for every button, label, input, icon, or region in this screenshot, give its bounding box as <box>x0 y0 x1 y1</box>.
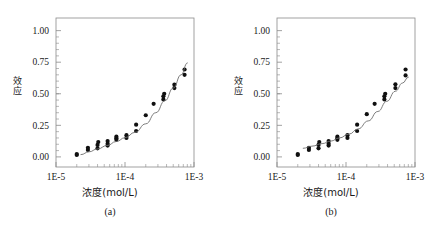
plot-frame <box>277 18 415 167</box>
x-tick-label: 1E-4 <box>116 172 135 182</box>
y-tick-label: 0.00 <box>32 152 49 162</box>
data-point <box>296 152 300 156</box>
y-tick-label: 0.25 <box>253 121 270 131</box>
data-point <box>134 123 138 127</box>
x-tick-label: 1E-5 <box>268 172 287 182</box>
y-tick-label: 0.00 <box>253 152 270 162</box>
x-tick-label: 1E-3 <box>406 172 425 182</box>
y-tick-label: 0.50 <box>32 89 49 99</box>
plot-frame <box>56 18 194 167</box>
panel-caption-b: (b) <box>221 206 441 217</box>
y-axis-title-b: 效应 <box>231 76 245 96</box>
data-point <box>96 140 100 144</box>
data-point <box>75 152 79 156</box>
panel-caption-a: (a) <box>0 206 220 217</box>
x-axis-title-a: 浓度(mol/L) <box>0 184 220 199</box>
data-point <box>106 139 110 143</box>
y-tick-label: 0.75 <box>253 57 270 67</box>
data-point <box>365 112 369 116</box>
data-point <box>383 92 387 96</box>
data-point <box>403 67 407 71</box>
data-point <box>355 123 359 127</box>
data-point <box>152 102 156 106</box>
data-point <box>144 113 148 117</box>
y-tick-label: 0.75 <box>32 57 49 67</box>
fit-curve <box>303 77 408 148</box>
y-tick-label: 1.00 <box>253 26 270 36</box>
y-tick-label: 0.50 <box>253 89 270 99</box>
chart-panel-a: 0.000.250.500.751.001E-51E-41E-3 效应 浓度(m… <box>0 0 220 234</box>
data-point <box>373 102 377 106</box>
data-point <box>393 82 397 86</box>
x-axis-title-b: 浓度(mol/L) <box>221 184 441 199</box>
chart-panel-b: 0.000.250.500.751.001E-51E-41E-3 效应 浓度(m… <box>221 0 441 234</box>
x-tick-label: 1E-3 <box>185 172 204 182</box>
x-tick-label: 1E-4 <box>337 172 356 182</box>
x-tick-label: 1E-5 <box>47 172 66 182</box>
figure-container: 0.000.250.500.751.001E-51E-41E-3 效应 浓度(m… <box>0 0 441 234</box>
y-tick-label: 0.25 <box>32 121 49 131</box>
y-axis-title-a: 效应 <box>10 76 24 96</box>
data-point <box>86 146 90 150</box>
y-tick-label: 1.00 <box>32 26 49 36</box>
data-point <box>403 73 407 77</box>
data-point <box>393 86 397 90</box>
data-point <box>162 92 166 96</box>
data-point <box>114 135 118 139</box>
